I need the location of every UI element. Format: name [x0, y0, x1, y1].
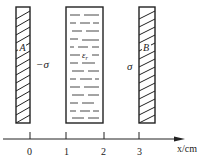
capacitor-diagram: A −σ εr — [0, 0, 218, 167]
tick-label-1: 1 — [64, 146, 69, 157]
dielectric-outline — [66, 7, 103, 123]
plate-a-charge-label: −σ — [36, 58, 49, 70]
plate-b-hatching — [139, 11, 155, 123]
tick-label-2: 2 — [101, 146, 106, 157]
plate-a: A — [16, 7, 30, 123]
plate-b-label: B — [143, 42, 149, 53]
dielectric-slab: εr — [66, 7, 103, 123]
x-axis: 0 1 2 3 x/cm — [3, 132, 197, 157]
plate-b: B — [139, 7, 155, 123]
x-axis-label: x/cm — [177, 143, 197, 154]
x-axis-arrow-icon — [174, 137, 185, 142]
tick-label-3: 3 — [137, 146, 142, 157]
tick-label-0: 0 — [27, 146, 32, 157]
plate-a-hatching — [16, 11, 30, 123]
plate-a-label: A — [19, 42, 27, 53]
plate-b-charge-label: σ — [127, 60, 133, 72]
